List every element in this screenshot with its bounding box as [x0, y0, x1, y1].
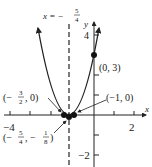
svg-text:4: 4 — [19, 138, 23, 146]
svg-text:8: 8 — [44, 138, 48, 146]
point-y-intercept — [91, 52, 97, 58]
tick-label-y-4: 4 — [84, 30, 89, 41]
svg-text:(−: (− — [3, 92, 12, 104]
label-x-intercept-right: (−1, 0) — [106, 92, 133, 104]
label-y-intercept: (0, 3) — [99, 62, 121, 74]
parabola-graph: x −4 2 y 4 −2 x = − 5 4 (0, 3) (−1, 0) — [0, 0, 152, 167]
svg-text:5: 5 — [19, 129, 23, 137]
svg-text:5: 5 — [75, 7, 79, 15]
svg-text:(−: (− — [3, 132, 12, 144]
svg-text:4: 4 — [75, 16, 79, 24]
arrow-x-intercept-right — [78, 100, 106, 112]
x-axis-label: x — [144, 104, 149, 114]
y-axis-label: y — [83, 19, 88, 29]
svg-text:, −: , − — [25, 132, 36, 143]
label-x-intercept-left: (− 3 2 , 0) — [3, 89, 38, 106]
tick-label-y-neg2: −2 — [78, 149, 90, 161]
svg-text:x = −: x = − — [42, 11, 64, 21]
svg-text:3: 3 — [19, 89, 23, 97]
svg-text:): ) — [50, 132, 53, 144]
point-vertex — [66, 114, 72, 120]
svg-text:2: 2 — [19, 98, 23, 106]
axis-of-symmetry-label: x = − 5 4 — [42, 7, 80, 24]
svg-text:1: 1 — [44, 129, 48, 137]
svg-text:, 0): , 0) — [25, 92, 38, 104]
label-vertex: (− 5 4 , − 1 8 ) — [3, 129, 53, 146]
arrow-vertex — [54, 121, 66, 133]
tick-label-x-2: 2 — [129, 121, 135, 133]
